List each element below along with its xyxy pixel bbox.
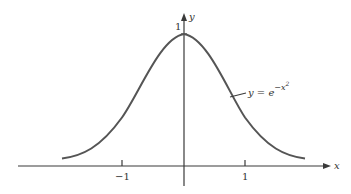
gaussian-chart: x y −1 1 1 y = e−x2 (0, 0, 351, 194)
equation-main: y = e (247, 87, 274, 98)
equation-label: y = e−x2 (247, 80, 290, 98)
y-axis-label: y (188, 11, 195, 22)
equation-power: 2 (285, 80, 290, 87)
equation-exponent: −x (274, 83, 286, 92)
x-axis-arrow-icon (323, 163, 331, 169)
tick-label-neg1: −1 (115, 171, 130, 182)
x-axis-label: x (334, 160, 340, 171)
y-axis-arrow-icon (181, 13, 187, 21)
tick-label-pos1: 1 (242, 171, 248, 182)
tick-label-y1: 1 (175, 21, 181, 32)
